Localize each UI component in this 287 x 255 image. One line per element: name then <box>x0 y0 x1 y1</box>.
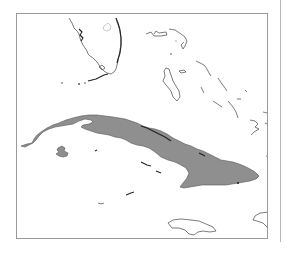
lake-okeechobee <box>103 23 111 31</box>
florida-outline <box>61 18 121 85</box>
locator-map <box>16 13 268 239</box>
cuba-shape <box>21 115 259 188</box>
bahamas-outline <box>146 29 268 135</box>
jamaica-outline <box>168 219 216 235</box>
side-divider <box>280 0 281 242</box>
map-frame <box>16 13 268 239</box>
hispaniola-north-fragment <box>266 156 268 163</box>
cuba-mainland <box>21 115 259 188</box>
turks-caicos-outline <box>250 120 259 135</box>
hispaniola-outline <box>253 212 268 230</box>
isla-de-la-juventud <box>56 146 68 157</box>
